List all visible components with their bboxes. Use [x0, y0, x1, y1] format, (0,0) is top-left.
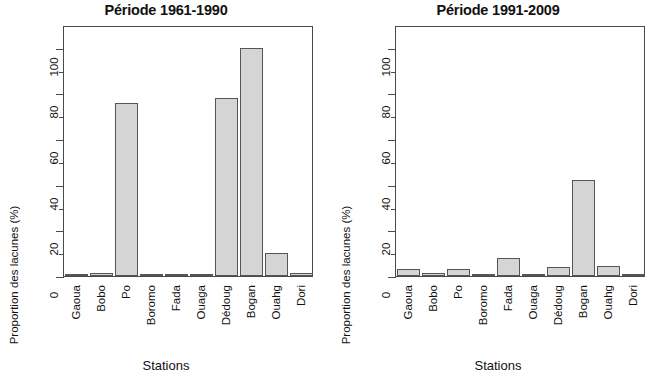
- bar: [447, 269, 470, 276]
- x-tick-label: Bogan: [245, 285, 257, 355]
- bars-container: [396, 27, 644, 276]
- x-tick-label: Gaoua: [70, 285, 82, 355]
- x-tick-label: Bobo: [95, 285, 107, 355]
- x-tick-label: Dori: [295, 285, 307, 355]
- y-tick-label: 100: [380, 47, 392, 87]
- x-tick-label: Fada: [502, 285, 514, 355]
- x-tick-label: Bogan: [577, 285, 589, 355]
- x-axis-tick-labels: GaouaBoboPoBoromoFadaOuagaDédougBoganOua…: [63, 279, 313, 351]
- bar: [140, 274, 163, 276]
- y-tick-label: 60: [380, 138, 392, 178]
- panel-title: Période 1961-1990: [0, 2, 332, 18]
- plot-area: [395, 26, 645, 277]
- x-axis-title: Stations: [332, 358, 664, 373]
- plot-area: [63, 26, 313, 277]
- y-tick-label: 20: [380, 229, 392, 269]
- bar: [165, 274, 188, 276]
- bar: [215, 98, 238, 276]
- bar: [422, 273, 445, 276]
- x-tick-label: Ouahg: [602, 285, 614, 355]
- panel-title: Période 1991-2009: [332, 2, 664, 18]
- bar: [190, 274, 213, 276]
- x-axis-title: Stations: [0, 358, 332, 373]
- x-tick-label: Ouahg: [270, 285, 282, 355]
- y-tick-label: 20: [48, 229, 60, 269]
- y-axis-title: Proportion des lacunes (%): [8, 150, 20, 382]
- panel-periode-1991-2009: Période 1991-2009 Proportion des lacunes…: [332, 0, 664, 382]
- x-tick-label: Gaoua: [402, 285, 414, 355]
- bar: [65, 274, 88, 276]
- y-tick-label: 60: [48, 138, 60, 178]
- x-tick-label: Fada: [170, 285, 182, 355]
- bar: [265, 253, 288, 276]
- y-tick-label: 0: [380, 275, 392, 315]
- y-tick-label: 40: [380, 184, 392, 224]
- y-tick-label: 80: [380, 92, 392, 132]
- bar: [572, 180, 595, 276]
- x-tick-label: Boromo: [477, 285, 489, 355]
- bar: [522, 274, 545, 276]
- y-tick-label: 0: [48, 275, 60, 315]
- x-tick-label: Ouaga: [527, 285, 539, 355]
- y-axis-title: Proportion des lacunes (%): [340, 150, 352, 382]
- bar: [497, 258, 520, 276]
- bar: [290, 273, 313, 276]
- x-tick-label: Dédoug: [552, 285, 564, 355]
- x-tick-label: Po: [120, 285, 132, 355]
- x-tick-label: Bobo: [427, 285, 439, 355]
- figure-two-panel-bar-charts: Période 1961-1990 Proportion des lacunes…: [0, 0, 665, 382]
- bar: [90, 273, 113, 276]
- bar: [622, 274, 645, 276]
- y-tick-label: 40: [48, 184, 60, 224]
- y-tick-label: 100: [48, 47, 60, 87]
- x-tick-label: Po: [452, 285, 464, 355]
- y-tick-label: 80: [48, 92, 60, 132]
- bar: [240, 48, 263, 276]
- x-tick-label: Dori: [627, 285, 639, 355]
- x-tick-label: Boromo: [145, 285, 157, 355]
- bar: [397, 269, 420, 276]
- panel-periode-1961-1990: Période 1961-1990 Proportion des lacunes…: [0, 0, 332, 382]
- x-tick-label: Dédoug: [220, 285, 232, 355]
- bar: [115, 103, 138, 276]
- x-tick-label: Ouaga: [195, 285, 207, 355]
- x-axis-tick-labels: GaouaBoboPoBoromoFadaOuagaDédougBoganOua…: [395, 279, 645, 351]
- bar: [547, 267, 570, 276]
- bar: [472, 274, 495, 276]
- bar: [597, 266, 620, 276]
- bars-container: [64, 27, 312, 276]
